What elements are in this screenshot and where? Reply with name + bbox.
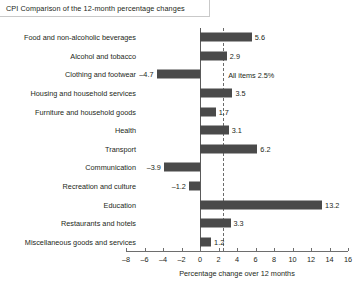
x-axis-tick-label: 12	[307, 255, 315, 264]
x-axis-tick-label: –8	[122, 255, 130, 264]
x-axis-tick	[311, 248, 312, 251]
x-axis-tick	[200, 248, 201, 251]
category-label: Recreation and culture	[0, 182, 136, 191]
x-axis-tick-label: 0	[198, 255, 202, 264]
category-label: Communication	[0, 163, 136, 172]
bar-value-label: 2.9	[230, 51, 240, 60]
x-axis-line	[126, 251, 348, 252]
bar	[200, 200, 322, 209]
x-axis-title: Percentage change over 12 months	[179, 269, 295, 278]
bar	[200, 144, 257, 153]
x-axis-tick	[182, 248, 183, 251]
x-axis-tick-label: 10	[288, 255, 296, 264]
bar-value-label: –4.7	[139, 70, 153, 79]
chart-row: Education13.2	[0, 195, 354, 214]
bar	[189, 182, 200, 191]
chart-row: Miscellaneous goods and services1.2	[0, 233, 354, 252]
x-axis-tick-label: 14	[325, 255, 333, 264]
x-axis-tick	[163, 248, 164, 251]
category-label: Food and non-alcoholic beverages	[0, 33, 136, 42]
bar-value-label: 5.6	[255, 33, 265, 42]
bar	[200, 219, 231, 228]
category-label: Clothing and footwear	[0, 70, 136, 79]
bar	[200, 126, 229, 135]
bar-value-label: 3.1	[232, 126, 242, 135]
bar	[164, 163, 200, 172]
category-label: Housing and household services	[0, 89, 136, 98]
x-axis-tick	[126, 248, 127, 251]
chart-row: Furniture and household goods1.7	[0, 102, 354, 121]
bar	[157, 70, 200, 79]
x-axis-tick	[145, 248, 146, 251]
bar-value-label: 3.5	[235, 89, 245, 98]
chart-row: Food and non-alcoholic beverages5.6	[0, 28, 354, 47]
bar-value-label: 13.2	[325, 200, 339, 209]
chart-row: Alcohol and tobacco2.9	[0, 47, 354, 66]
category-label: Furniture and household goods	[0, 107, 136, 116]
chart-row: Clothing and footwear–4.7	[0, 65, 354, 84]
category-label: Education	[0, 200, 136, 209]
category-label: Transport	[0, 144, 136, 153]
plot-area: Food and non-alcoholic beverages5.6Alcoh…	[0, 28, 354, 266]
x-axis-tick-label: 6	[253, 255, 257, 264]
bar-value-label: –3.9	[147, 163, 161, 172]
bar-value-label: –1.2	[172, 182, 186, 191]
bar-value-label: 1.7	[219, 107, 229, 116]
x-axis-tick-label: –2	[177, 255, 185, 264]
bar-value-label: 6.2	[260, 144, 270, 153]
chart-row: Health3.1	[0, 121, 354, 140]
x-axis-tick-label: –6	[140, 255, 148, 264]
page-title: CPI Comparison of the 12-month percentag…	[0, 4, 185, 13]
x-axis-tick-label: 16	[344, 255, 352, 264]
x-axis-tick-label: 8	[272, 255, 276, 264]
chart-row: Recreation and culture–1.2	[0, 177, 354, 196]
x-axis-tick	[237, 248, 238, 251]
x-axis-tick	[256, 248, 257, 251]
chart-row: Communication–3.9	[0, 158, 354, 177]
reference-line-annotation: All items 2.5%	[228, 70, 274, 79]
category-label: Miscellaneous goods and services	[0, 237, 136, 246]
x-axis-tick	[348, 248, 349, 251]
x-axis-tick	[274, 248, 275, 251]
bar	[200, 33, 252, 42]
x-axis-tick	[330, 248, 331, 251]
chart-title-box: CPI Comparison of the 12-month percentag…	[0, 0, 210, 17]
bar	[200, 89, 232, 98]
cpi-bar-chart: CPI Comparison of the 12-month percentag…	[0, 0, 354, 308]
chart-row: Housing and household services3.5	[0, 84, 354, 103]
x-axis-tick-label: –4	[159, 255, 167, 264]
chart-row: Transport6.2	[0, 140, 354, 159]
bar	[200, 51, 227, 60]
bar	[200, 107, 216, 116]
chart-row: Restaurants and hotels3.3	[0, 214, 354, 233]
bar	[200, 237, 211, 246]
category-label: Alcohol and tobacco	[0, 51, 136, 60]
bar-value-label: 1.2	[214, 237, 224, 246]
x-axis-tick	[293, 248, 294, 251]
x-axis-tick-label: 4	[235, 255, 239, 264]
x-axis-tick	[219, 248, 220, 251]
category-label: Restaurants and hotels	[0, 219, 136, 228]
category-label: Health	[0, 126, 136, 135]
x-axis-tick-label: 2	[216, 255, 220, 264]
bar-value-label: 3.3	[234, 219, 244, 228]
